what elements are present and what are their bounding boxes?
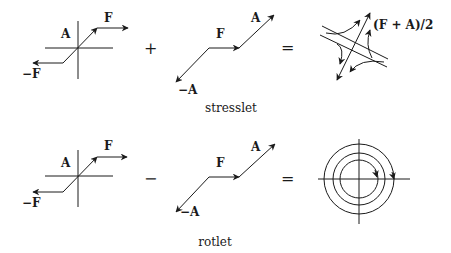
label-f: F (216, 156, 225, 170)
plus-operator: + (144, 39, 157, 58)
arrow-neg-a (176, 48, 209, 82)
concentric-circles (318, 139, 410, 224)
curved-flow-arrow (337, 44, 342, 64)
row-rotlet: A F −F − F A −A = rotlet (22, 139, 410, 249)
curved-flow-arrow (326, 20, 360, 34)
label-f: F (104, 11, 113, 25)
label-f: F (216, 27, 225, 41)
label-neg-a: −A (180, 205, 200, 219)
minus-operator: − (144, 169, 157, 188)
label-neg-f: −F (22, 196, 41, 210)
label-a: A (250, 11, 261, 25)
label-neg-f: −F (22, 67, 41, 81)
axis-arrow-f-plus-a (337, 13, 370, 80)
label-f: F (104, 139, 113, 153)
label-f-plus-a-over-2: (F + A)/2 (373, 18, 433, 32)
force-pair-left (33, 150, 127, 207)
curved-flow-arrow (368, 30, 372, 58)
label-neg-a: −A (178, 83, 198, 97)
stresslet-rotlet-diagram: A F −F + F A −A = stresslet (F + A)/2 (0, 0, 451, 253)
label-a: A (250, 140, 261, 154)
force-pair-middle (176, 144, 275, 212)
streamline (320, 35, 387, 67)
force-pair-middle (176, 15, 274, 82)
label-a: A (60, 27, 71, 41)
caption-stresslet: stresslet (205, 101, 257, 115)
equals-operator: = (281, 38, 294, 57)
label-a: A (60, 156, 71, 170)
caption-rotlet: rotlet (198, 235, 232, 249)
equals-operator: = (281, 169, 294, 188)
row-stresslet: A F −F + F A −A = stresslet (F + A)/2 (22, 11, 433, 115)
force-pair-left (33, 21, 128, 79)
